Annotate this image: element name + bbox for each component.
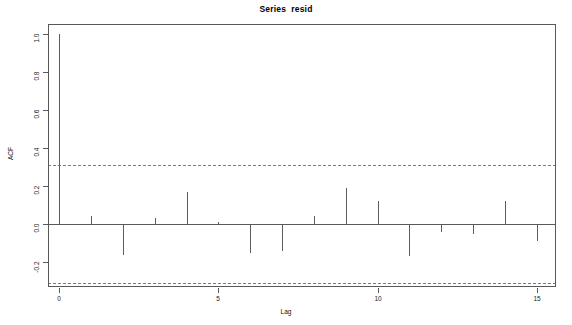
y-axis-tick-label: 0.2 [33, 185, 40, 211]
y-axis-title: ACF [7, 147, 14, 160]
chart-title: Series resid [0, 4, 572, 14]
y-axis-tick-label: 0.6 [33, 109, 40, 135]
y-axis-tick [43, 110, 48, 111]
acf-plot-figure: Series resid ACF -0.20.00.20.40.60.81.0 … [0, 0, 572, 325]
y-axis-tick [43, 72, 48, 73]
y-axis-tick [43, 148, 48, 149]
x-axis-title: Lag [0, 308, 572, 315]
y-axis-tick [43, 262, 48, 263]
y-axis-tick [43, 224, 48, 225]
x-axis-tick [59, 288, 60, 293]
y-axis-tick-label: -0.2 [33, 262, 40, 288]
x-axis-tick [378, 288, 379, 293]
y-axis-tick [43, 186, 48, 187]
x-axis-tick [537, 288, 538, 293]
plot-frame [48, 24, 556, 287]
x-axis-tick-label: 5 [203, 295, 233, 302]
y-axis-tick-label: 0.0 [33, 224, 40, 250]
x-axis-tick [218, 288, 219, 293]
y-axis-tick-label: 1.0 [33, 33, 40, 59]
x-axis-tick-label: 0 [44, 295, 74, 302]
y-axis-tick-label: 0.4 [33, 147, 40, 173]
x-axis-tick-label: 15 [522, 295, 552, 302]
x-axis-tick-label: 10 [363, 295, 393, 302]
y-axis-tick-label: 0.8 [33, 71, 40, 97]
y-axis-tick [43, 34, 48, 35]
